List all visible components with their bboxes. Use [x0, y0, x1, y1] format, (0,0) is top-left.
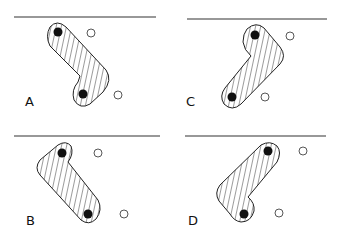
- panel-b: B: [14, 136, 160, 228]
- filled-dot: [84, 210, 93, 219]
- filled-dot: [264, 147, 273, 156]
- open-dot: [114, 91, 122, 99]
- filled-dot: [79, 90, 88, 99]
- open-dot: [120, 210, 128, 218]
- filled-dot: [240, 210, 249, 219]
- open-dot: [87, 29, 95, 37]
- filled-dot: [251, 31, 260, 40]
- open-dot: [286, 32, 294, 40]
- open-dot: [275, 209, 283, 217]
- filled-dot: [228, 93, 237, 102]
- panel-a: A: [14, 17, 156, 109]
- panel-label: C: [186, 94, 195, 109]
- panel-d: D: [185, 136, 326, 228]
- panel-label: D: [188, 213, 198, 228]
- panel-label: B: [26, 213, 35, 228]
- open-dot: [94, 149, 102, 157]
- panel-label: A: [25, 94, 34, 109]
- open-dot: [261, 93, 269, 101]
- panel-c: C: [186, 19, 327, 109]
- filled-dot: [54, 28, 63, 37]
- filled-dot: [58, 149, 67, 158]
- open-dot: [299, 147, 307, 155]
- diagram-canvas: A C B D: [0, 0, 338, 243]
